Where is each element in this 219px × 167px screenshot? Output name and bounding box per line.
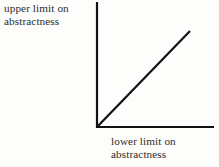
x-axis-label-line-2: abstractness [111, 148, 176, 161]
diagonal-limit-line [97, 31, 190, 127]
axes-and-plot [0, 0, 219, 167]
abstractness-limits-diagram: upper limit on abstractness lower limit … [0, 0, 219, 167]
x-axis-label-line-1: lower limit on [111, 135, 176, 148]
x-axis-label: lower limit on abstractness [111, 135, 176, 160]
